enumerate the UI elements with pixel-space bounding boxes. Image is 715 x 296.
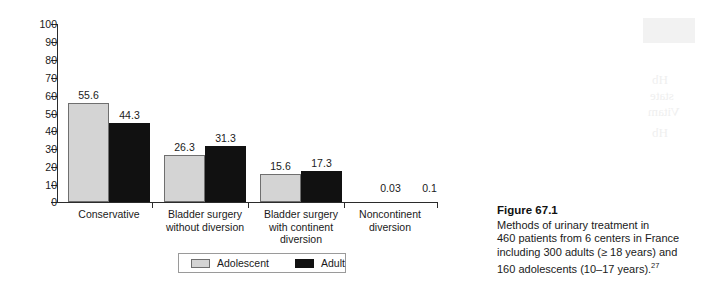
figure-caption-line-2: 460 patients from 6 centers in France [497,232,707,245]
category-label-noncontinent-diversion-line-2: diversion [330,221,450,234]
figure-67-1: 100 90 80 70 60 50 40 30 20 10 0 55.6 44… [0,0,715,296]
bar-adolescent-bladder-without-diversion [164,155,205,202]
y-tick-label-70: 70 [31,73,57,83]
figure-caption-line-3: including 300 adults (≥ 18 years) and [497,246,707,259]
bar-value-adult-bladder-without-diversion: 31.3 [205,133,246,144]
y-tick-label-10: 10 [31,180,57,190]
bar-value-adolescent-bladder-without-diversion: 26.3 [164,142,205,153]
scan-artifact-text-2: state [650,88,674,104]
y-tick-label-100-wrap: 100 [14,19,57,29]
y-tick-label-50: 50 [31,109,57,119]
scan-artifact-block [643,18,695,43]
bar-value-adult-bladder-with-continent-diversion: 17.3 [301,158,342,169]
y-tick-label-60: 60 [31,91,57,101]
y-tick-label-10-wrap: 10 [14,180,57,190]
category-label-noncontinent-diversion: Noncontinent diversion [330,208,450,233]
y-tick-label-90-wrap: 90 [14,37,57,47]
y-tick-label-40-wrap: 40 [14,126,57,136]
legend-entry-adult: Adult [295,254,345,272]
figure-caption-line-1: Methods of urinary treatment in [497,219,707,232]
bar-adult-bladder-without-diversion [205,146,246,202]
figure-caption-reference: 27 [651,261,659,270]
y-tick-label-50-wrap: 50 [14,109,57,119]
y-tick-label-100: 100 [31,19,57,29]
bar-adult-bladder-with-continent-diversion [301,171,342,202]
y-tick-label-70-wrap: 70 [14,73,57,83]
scan-artifact-text-4: Hb [652,125,668,141]
y-tick-label-30-wrap: 30 [14,144,57,154]
figure-caption-line-4-text: 160 adolescents (10–17 years). [497,263,651,275]
bar-value-adolescent-bladder-with-continent-diversion: 15.6 [260,161,301,172]
figure-caption-line-4: 160 adolescents (10–17 years).27 [497,259,707,276]
legend-swatch-adolescent-icon [191,259,210,268]
y-tick-label-30: 30 [31,144,57,154]
chart-legend: Adolescent Adult [178,253,346,273]
y-tick-label-90: 90 [31,37,57,47]
x-axis-line [57,202,437,203]
figure-caption-title: Figure 67.1 [497,203,707,217]
category-label-bladder-with-continent-diversion-line-3: diversion [241,233,361,246]
legend-swatch-adult-icon [295,259,314,268]
y-tick-label-0: 0 [31,197,57,207]
y-tick-label-20-wrap: 20 [14,162,57,172]
y-tick-label-40: 40 [31,126,57,136]
y-tick-label-60-wrap: 60 [14,91,57,101]
y-tick-label-80: 80 [31,55,57,65]
bar-adult-conservative [109,123,150,202]
category-label-noncontinent-diversion-line-1: Noncontinent [330,208,450,221]
bar-chart: 100 90 80 70 60 50 40 30 20 10 0 55.6 44… [0,0,470,296]
y-axis-line [57,24,58,203]
bar-value-adult-conservative: 44.3 [109,110,150,121]
bar-value-adult-noncontinent-diversion: 0.1 [409,183,450,194]
scan-artifact-text-1: Hb [652,72,668,88]
bar-value-adolescent-noncontinent-diversion: 0.03 [370,183,411,194]
figure-caption: Figure 67.1 Methods of urinary treatment… [497,203,707,276]
y-tick-label-0-wrap: 0 [14,197,57,207]
y-tick-label-20: 20 [31,162,57,172]
bar-adolescent-conservative [68,103,109,202]
legend-entry-adolescent: Adolescent [191,254,269,272]
bar-value-adolescent-conservative: 55.6 [68,90,109,101]
scan-artifact-text-3: Vitam [648,104,680,120]
bar-adolescent-bladder-with-continent-diversion [260,174,301,202]
y-tick-label-80-wrap: 80 [14,55,57,65]
legend-label-adult: Adult [321,258,345,269]
legend-label-adolescent: Adolescent [217,258,269,269]
